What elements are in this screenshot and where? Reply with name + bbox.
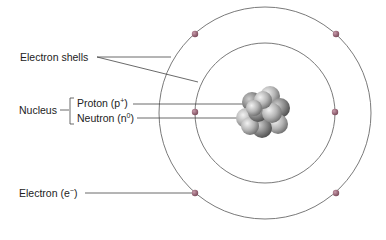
label-electron-shells: Electron shells xyxy=(20,51,88,63)
electron-close: ) xyxy=(74,187,78,199)
electron-outer-3 xyxy=(192,190,198,196)
electron-outer-4 xyxy=(333,190,339,196)
electron-inner-1 xyxy=(192,109,198,115)
label-neutron: Neutron (n0) xyxy=(77,112,134,124)
electron-outer-1 xyxy=(192,31,198,37)
neutron-close: ) xyxy=(131,112,135,124)
leader-lines xyxy=(60,57,262,193)
neutron-text: Neutron (n xyxy=(77,112,127,124)
electron-inner-2 xyxy=(332,109,338,115)
proton-close: ) xyxy=(124,97,128,109)
label-nucleus: Nucleus xyxy=(19,104,57,116)
electron-text: Electron (e xyxy=(19,187,70,199)
label-proton: Proton (p+) xyxy=(77,97,128,109)
electron-outer-2 xyxy=(333,31,339,37)
proton-text: Proton (p xyxy=(77,97,120,109)
nucleus-cluster xyxy=(236,86,290,138)
label-electron: Electron (e−) xyxy=(19,187,77,199)
